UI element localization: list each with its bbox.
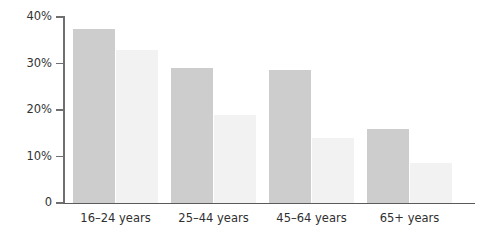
plot-area	[63, 17, 475, 203]
bar	[410, 163, 452, 203]
category-label: 65+ years	[350, 213, 470, 225]
y-tick-mark	[56, 202, 63, 204]
y-tick-mark	[56, 109, 63, 111]
y-tick-label: 10%	[0, 151, 52, 163]
bar	[214, 115, 256, 203]
bar	[171, 68, 213, 203]
y-tick-mark	[56, 63, 63, 65]
bar	[73, 29, 115, 203]
y-tick-label: 20%	[0, 104, 52, 116]
y-tick-mark	[56, 156, 63, 158]
y-tick-label: 40%	[0, 11, 52, 23]
y-tick-label: 0	[0, 197, 52, 209]
y-tick-label: 30%	[0, 58, 52, 70]
bar-chart: 40%30%20%10%0 16–24 years25–44 years45–6…	[0, 0, 485, 242]
bar	[269, 70, 311, 203]
bar	[312, 138, 354, 203]
y-tick-mark	[56, 16, 63, 18]
bar	[367, 129, 409, 203]
bar	[116, 50, 158, 203]
